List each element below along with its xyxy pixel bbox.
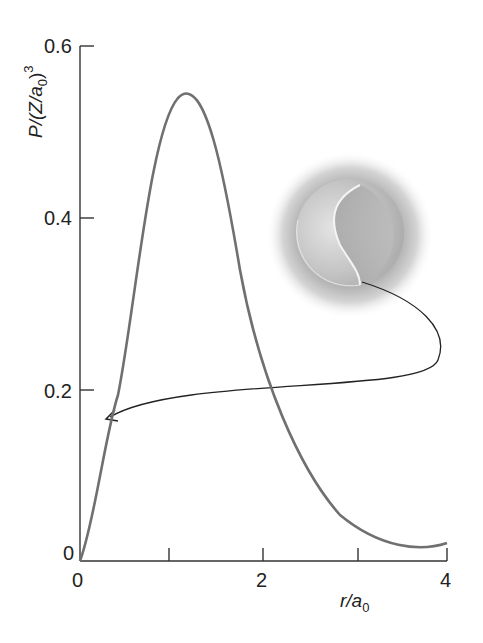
chart: 0.6 0.4 0.2 0 0 2 4 r/a0 P/(Z/a0)3 xyxy=(0,0,483,643)
orbital-illustration xyxy=(266,151,434,319)
y-axis-label: P/(Z/a0)3 xyxy=(21,65,50,138)
x-tick-2: 2 xyxy=(256,569,267,591)
y-tick-0.6: 0.6 xyxy=(44,35,72,57)
y-tick-0.4: 0.4 xyxy=(44,207,72,229)
y-tick-0.2: 0.2 xyxy=(44,380,72,402)
x-tick-4: 4 xyxy=(440,569,451,591)
x-tick-0: 0 xyxy=(72,569,83,591)
x-axis-label: r/a0 xyxy=(340,590,369,615)
y-tick-0: 0 xyxy=(63,542,74,564)
